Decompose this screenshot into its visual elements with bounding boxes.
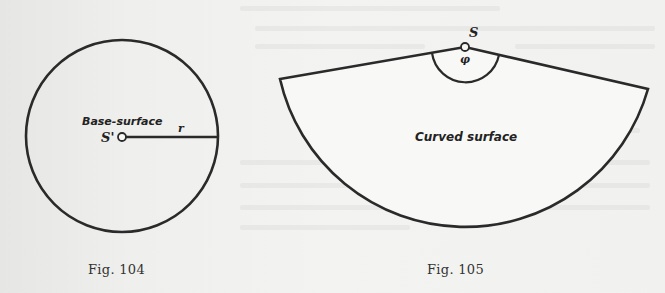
angle-phi-label: φ <box>460 53 470 66</box>
center-point-marker <box>118 133 126 141</box>
curved-surface-label: Curved surface <box>415 130 517 144</box>
radius-label: r <box>178 122 184 135</box>
base-surface-label: Base-surface <box>82 115 162 128</box>
figures-drawing <box>0 0 665 293</box>
fig-105-caption: Fig. 105 <box>427 262 484 277</box>
apex-point-marker <box>461 43 469 51</box>
fig-104-caption: Fig. 104 <box>88 262 145 277</box>
center-point-label: S' <box>101 130 114 145</box>
fig-104-diagram <box>26 40 218 232</box>
apex-point-label: S <box>469 25 478 40</box>
